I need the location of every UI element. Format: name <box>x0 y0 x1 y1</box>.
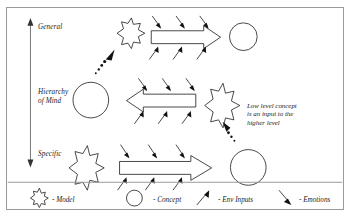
legend-icons <box>7 8 343 209</box>
legend-label-env-inputs: - Env Inputs <box>218 196 253 204</box>
star-icon-legend <box>30 188 48 207</box>
legend-label-model: - Model <box>52 196 75 204</box>
up-arrow-icon-legend <box>197 190 209 205</box>
legend-label-concept: - Concept <box>153 196 181 204</box>
diagram-frame: General Hierarchy of Mind Specific <box>6 7 344 210</box>
circle-icon-legend <box>126 190 142 206</box>
down-arrow-icon-legend <box>279 190 291 205</box>
legend-label-emotions: - Emotions <box>299 196 330 204</box>
